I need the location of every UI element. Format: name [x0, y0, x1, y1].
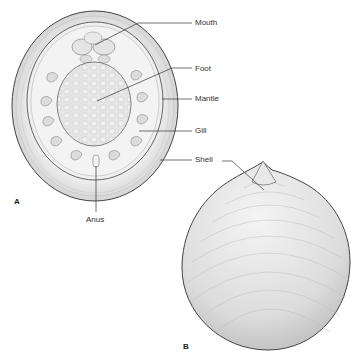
- foot: [57, 62, 131, 146]
- label-mantle: Mantle: [195, 95, 219, 103]
- figure-b-conical-shell: [182, 161, 350, 350]
- label-shell: Shell: [195, 156, 213, 164]
- diagram-canvas: [0, 0, 360, 361]
- label-mouth: Mouth: [195, 19, 217, 27]
- figure-a-limpet-ventral: [12, 11, 178, 201]
- label-anus: Anus: [86, 216, 104, 224]
- conical-shell: [182, 162, 350, 350]
- anus-tube: [93, 155, 99, 167]
- label-gill: Gill: [195, 127, 207, 135]
- panel-label-a: A: [14, 198, 20, 206]
- label-foot: Foot: [195, 65, 211, 73]
- panel-label-b: B: [183, 343, 189, 351]
